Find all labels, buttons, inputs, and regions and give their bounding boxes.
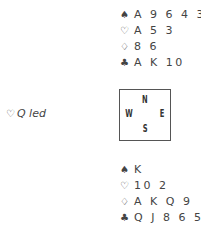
diamond-icon: ♢	[120, 194, 134, 210]
club-icon: ♣	[120, 210, 134, 226]
compass-south: S	[143, 123, 148, 134]
north-hearts: ♡A 5 3	[120, 23, 201, 39]
spade-icon: ♠	[120, 162, 134, 178]
north-diamonds: ♢8 6	[120, 39, 201, 55]
south-hand: ♠K ♡10 2 ♢A K Q 9 ♣Q J 8 6 5 4	[120, 162, 201, 226]
compass-box: N W E S	[119, 89, 171, 141]
heart-icon: ♡	[6, 108, 15, 119]
south-spades: ♠K	[120, 162, 201, 178]
compass-west: W	[125, 108, 132, 119]
lead-text: Q led	[17, 107, 46, 120]
south-diamonds: ♢A K Q 9	[120, 194, 201, 210]
opening-lead: ♡Q led	[6, 107, 46, 120]
compass-north: N	[142, 94, 148, 105]
heart-icon: ♡	[120, 23, 134, 39]
north-clubs: ♣A K 10	[120, 55, 201, 71]
south-hearts: ♡10 2	[120, 178, 201, 194]
club-icon: ♣	[120, 55, 134, 71]
diamond-icon: ♢	[120, 39, 134, 55]
south-clubs: ♣Q J 8 6 5 4	[120, 210, 201, 226]
spade-icon: ♠	[120, 7, 134, 23]
north-spades: ♠A 9 6 4 3	[120, 7, 201, 23]
compass-east: E	[160, 108, 165, 119]
north-hand: ♠A 9 6 4 3 ♡A 5 3 ♢8 6 ♣A K 10	[120, 7, 201, 71]
heart-icon: ♡	[120, 178, 134, 194]
